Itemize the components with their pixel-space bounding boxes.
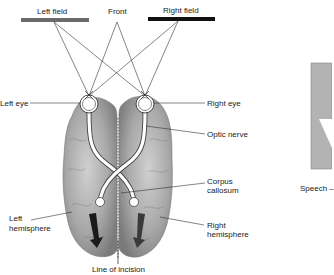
- right-eye: [136, 95, 154, 113]
- label-left-eye: Left eye: [0, 99, 28, 108]
- label-right-hemisphere-2: hemisphere: [207, 230, 249, 239]
- label-line-of-incision: Line of incision: [92, 265, 145, 274]
- right-field-bar: [148, 17, 215, 21]
- right-panel-figure: [311, 63, 332, 169]
- label-left-field: Left field: [37, 7, 67, 16]
- label-left-hemisphere-2: hemisphere: [9, 224, 51, 233]
- left-eye: [80, 95, 98, 113]
- left-field-bar: [21, 18, 89, 22]
- label-corpus-callosum-2: callosum: [207, 186, 239, 195]
- label-right-hemisphere-1: Right: [207, 221, 226, 230]
- label-left-hemisphere-1: Left: [9, 214, 22, 223]
- label-corpus-callosum-1: Corpus: [207, 177, 233, 186]
- label-right-eye: Right eye: [207, 99, 241, 108]
- label-right-field: Right field: [163, 6, 199, 15]
- label-speech: Speech –: [300, 184, 334, 193]
- label-optic-nerve: Optic nerve: [207, 130, 248, 139]
- label-front: Front: [108, 7, 127, 16]
